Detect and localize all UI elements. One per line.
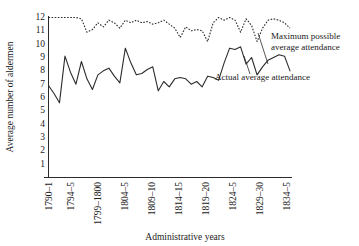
x-tick-1834: 1834–5: [282, 182, 292, 211]
y-tick-5: 5: [40, 105, 45, 115]
y-tick-9: 9: [40, 52, 45, 62]
leader-line-maximum: [258, 33, 268, 64]
annotation-maximum-line1: Maximum possible: [271, 31, 340, 41]
x-tick-1814: 1814–15: [174, 182, 184, 216]
x-tick-labels: 1790–1 1794–5 1799–1800 1804–5 1809–10 1…: [44, 182, 292, 225]
x-tick-1809: 1809–10: [147, 182, 157, 216]
y-tick-4: 4: [40, 119, 45, 129]
y-tick-7: 7: [40, 79, 45, 89]
annotation-maximum-line2: average attendance: [271, 42, 340, 52]
y-tick-labels: 12 11 10 9 8 7 6 5 4 3 2 1: [36, 12, 46, 169]
x-tick-1804: 1804–5: [120, 182, 130, 211]
y-tick-2: 2: [40, 145, 45, 155]
series-maximum-possible: [49, 18, 291, 42]
y-tick-12: 12: [36, 12, 46, 22]
x-tick-1794: 1794–5: [66, 182, 76, 211]
annotation-actual: Actual average attendance: [215, 72, 310, 82]
y-tick-11: 11: [36, 25, 45, 35]
y-tick-8: 8: [40, 65, 45, 75]
x-tick-1829: 1829–30: [255, 182, 265, 216]
y-tick-1: 1: [40, 159, 45, 169]
y-tick-10: 10: [36, 39, 46, 49]
x-tick-1790: 1790–1: [44, 182, 54, 211]
y-tick-3: 3: [40, 132, 45, 142]
y-axis-title: Average number of aldermen: [5, 41, 15, 152]
x-tick-1799: 1799–1800: [93, 182, 103, 225]
y-tick-6: 6: [40, 92, 45, 102]
x-axis-title: Administrative years: [145, 232, 225, 242]
x-tick-1824: 1824–5: [228, 182, 238, 211]
attendance-chart: 12 11 10 9 8 7 6 5 4 3 2 1 Average numbe…: [0, 0, 359, 246]
x-tick-1819: 1819–20: [201, 182, 211, 216]
